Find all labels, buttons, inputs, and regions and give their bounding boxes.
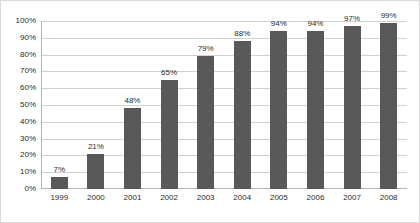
bar-chart: 0%10%20%30%40%50%60%70%80%90%100% 7%21%4… xyxy=(0,0,420,223)
bar-value-label: 65% xyxy=(151,69,188,77)
bar xyxy=(124,108,141,189)
bar-value-label: 7% xyxy=(41,166,78,174)
x-axis-tick-label: 2001 xyxy=(114,194,151,202)
x-axis-tick-label: 2000 xyxy=(78,194,115,202)
bar-value-label: 88% xyxy=(224,30,261,38)
bar-slot: 99% xyxy=(370,21,407,189)
bar-slot: 94% xyxy=(297,21,334,189)
y-axis-tick-label: 90% xyxy=(2,34,36,42)
bar xyxy=(234,41,251,189)
y-axis-tick-label: 30% xyxy=(2,135,36,143)
x-axis-tick-label: 2008 xyxy=(370,194,407,202)
bar-value-label: 97% xyxy=(334,15,371,23)
bar xyxy=(344,26,361,189)
y-axis-tick-label: 50% xyxy=(2,101,36,109)
x-axis-tick-label: 2004 xyxy=(224,194,261,202)
bar-value-label: 94% xyxy=(261,20,298,28)
y-axis-tick-label: 80% xyxy=(2,51,36,59)
y-axis-tick-label: 100% xyxy=(2,17,36,25)
bar-value-label: 94% xyxy=(297,20,334,28)
bar xyxy=(307,31,324,189)
y-axis-tick-label: 10% xyxy=(2,168,36,176)
bar xyxy=(51,177,68,189)
y-axis-tick-label: 40% xyxy=(2,118,36,126)
x-axis-tick-labels: 1999200020012002200320042005200620072008 xyxy=(41,194,407,202)
x-axis-tick-label: 2002 xyxy=(151,194,188,202)
bar-slot: 7% xyxy=(41,21,78,189)
y-axis-tick-label: 60% xyxy=(2,84,36,92)
y-axis-tick-label: 0% xyxy=(2,185,36,193)
x-axis-tick-label: 2005 xyxy=(261,194,298,202)
bar-slot: 79% xyxy=(187,21,224,189)
bar-slot: 48% xyxy=(114,21,151,189)
bar-series: 7%21%48%65%79%88%94%94%97%99% xyxy=(41,21,407,189)
bar-slot: 88% xyxy=(224,21,261,189)
x-axis-tick-label: 1999 xyxy=(41,194,78,202)
bar-slot: 97% xyxy=(334,21,371,189)
bar-slot: 21% xyxy=(78,21,115,189)
bar-slot: 65% xyxy=(151,21,188,189)
bar-value-label: 99% xyxy=(370,12,407,20)
y-axis-tick-label: 70% xyxy=(2,67,36,75)
x-axis-tick-label: 2007 xyxy=(334,194,371,202)
bar-value-label: 21% xyxy=(78,143,115,151)
bar xyxy=(87,154,104,189)
bar-value-label: 48% xyxy=(114,97,151,105)
x-axis-tick-label: 2003 xyxy=(187,194,224,202)
bar xyxy=(380,23,397,189)
bar xyxy=(197,56,214,189)
y-axis-tick-label: 20% xyxy=(2,151,36,159)
bar xyxy=(161,80,178,189)
bar-value-label: 79% xyxy=(187,45,224,53)
bar-slot: 94% xyxy=(261,21,298,189)
x-axis-tick-label: 2006 xyxy=(297,194,334,202)
bar xyxy=(270,31,287,189)
